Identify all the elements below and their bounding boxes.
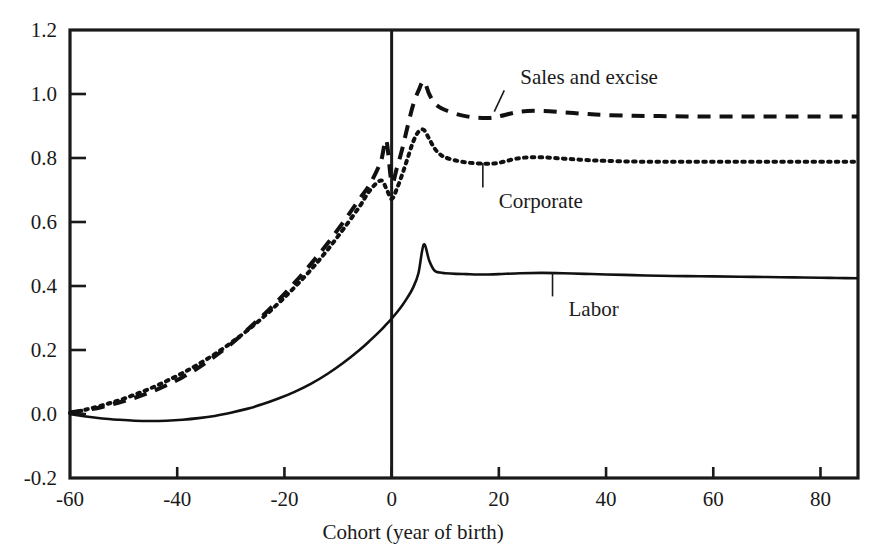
y-tick-label: 0.2 — [31, 338, 57, 362]
y-tick-label: 0.0 — [31, 402, 57, 426]
x-tick-label: 0 — [386, 487, 397, 511]
y-axis-ticks — [70, 94, 86, 414]
series-line-sales-and-excise — [70, 81, 858, 412]
chart-container: -60-40-20020406080 -0.20.00.20.40.60.81.… — [0, 0, 876, 557]
x-tick-label: -20 — [270, 487, 298, 511]
series-annotations: Sales and exciseCorporateLabor — [483, 65, 658, 321]
y-tick-label: -0.2 — [24, 466, 57, 490]
series-line-labor — [70, 244, 858, 421]
y-tick-label: 0.8 — [31, 146, 57, 170]
y-tick-label: 1.2 — [31, 18, 57, 42]
x-axis-ticks — [177, 467, 820, 478]
series-label-corporate: Corporate — [499, 189, 583, 213]
x-tick-label: -40 — [163, 487, 191, 511]
plot-border — [70, 30, 858, 478]
y-tick-label: 1.0 — [31, 82, 57, 106]
y-tick-label: 0.6 — [31, 210, 57, 234]
annotation-leader-line — [494, 90, 504, 111]
y-tick-label: 0.4 — [31, 274, 58, 298]
series-line-corporate — [70, 129, 858, 413]
series-label-labor: Labor — [569, 297, 619, 321]
y-axis-tick-labels: -0.20.00.20.40.60.81.01.2 — [24, 18, 58, 490]
x-tick-label: 80 — [810, 487, 831, 511]
x-tick-label: 40 — [596, 487, 617, 511]
x-axis-title: Cohort (year of birth) — [322, 520, 503, 544]
x-tick-label: 60 — [703, 487, 724, 511]
x-tick-label: -60 — [56, 487, 84, 511]
series-paths — [70, 81, 858, 421]
series-label-sales-and-excise: Sales and excise — [520, 65, 658, 89]
plot-frame — [70, 30, 858, 478]
x-tick-label: 20 — [488, 487, 509, 511]
line-chart: -60-40-20020406080 -0.20.00.20.40.60.81.… — [0, 0, 876, 557]
x-axis-tick-labels: -60-40-20020406080 — [56, 487, 831, 511]
